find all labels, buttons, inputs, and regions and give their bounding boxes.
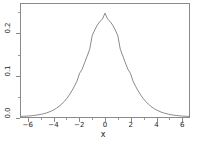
x-tick-minor — [118, 118, 119, 120]
y-tick-major — [16, 33, 20, 34]
y-tick-label-text: 0.2 — [4, 23, 12, 34]
x-tick-minor — [41, 118, 42, 120]
x-tick-minor — [92, 118, 93, 120]
plot-area — [20, 3, 190, 118]
x-tick-label: −4 — [48, 121, 58, 129]
y-tick-label-text: 0.1 — [4, 65, 12, 76]
figure: −6−4−20246 0.00.10.2 x — [0, 0, 198, 141]
x-tick-label: −6 — [23, 121, 33, 129]
x-tick-label: 4 — [154, 121, 158, 129]
y-tick-label: 0.1 — [2, 67, 13, 75]
y-tick-minor — [18, 97, 20, 98]
y-tick-minor — [18, 12, 20, 13]
x-tick-label: −2 — [74, 121, 84, 129]
x-tick-minor — [169, 118, 170, 120]
x-axis-label: x — [0, 130, 198, 139]
y-tick-minor — [18, 55, 20, 56]
y-tick-major — [16, 118, 20, 119]
y-tick-major — [16, 76, 20, 77]
x-tick-label: 0 — [103, 121, 107, 129]
density-curve-svg — [21, 4, 189, 117]
x-tick-minor — [66, 118, 67, 120]
x-tick-label: 2 — [129, 121, 133, 129]
density-curve-line — [21, 13, 189, 116]
x-axis-label-text: x — [101, 130, 106, 139]
y-tick-label: 0.2 — [2, 24, 13, 32]
y-tick-label: 0.0 — [2, 109, 13, 117]
x-tick-minor — [144, 118, 145, 120]
y-tick-label-text: 0.0 — [4, 107, 12, 118]
x-tick-label: 6 — [180, 121, 184, 129]
